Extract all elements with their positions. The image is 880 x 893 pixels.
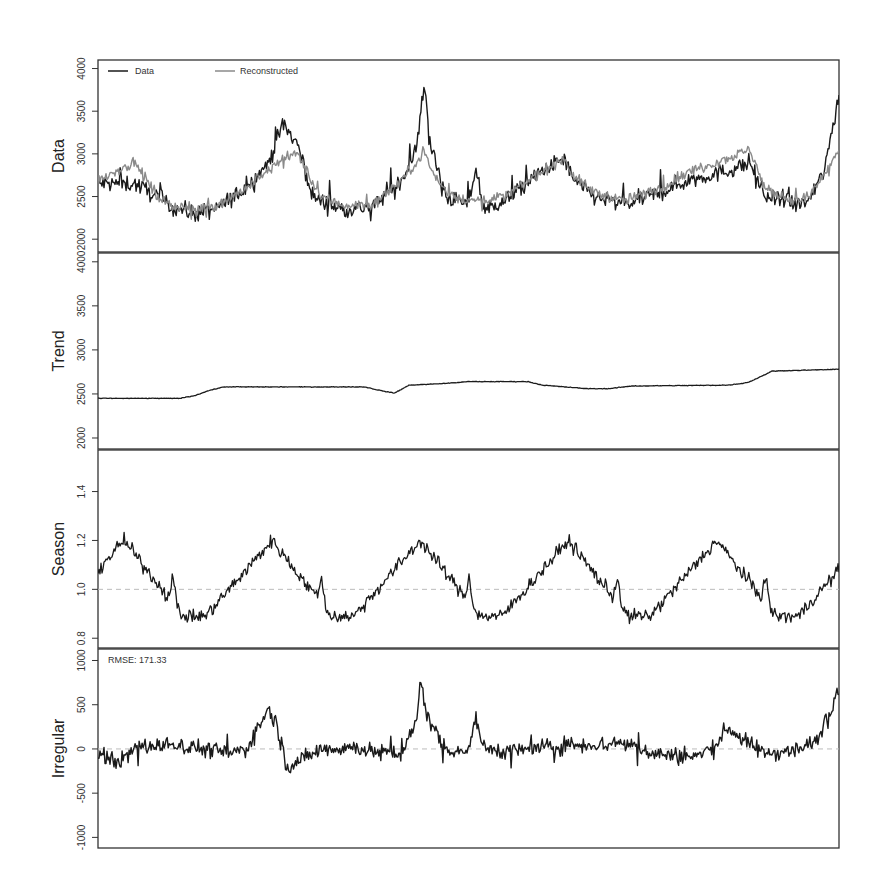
panel-season: 0.81.01.21.4Season (50, 450, 839, 648)
rmse-annotation: RMSE: 171.33 (108, 655, 167, 665)
panel-trend: 20002500300035004000Trend (50, 250, 839, 449)
y-tick-label: 1.4 (76, 484, 87, 498)
y-tick-label: 4000 (76, 57, 87, 80)
decomposition-chart: 20002500300035004000DataDataReconstructe… (0, 0, 880, 893)
panel-frame (98, 253, 839, 449)
y-axis-label: Season (50, 522, 67, 576)
y-tick-label: 4000 (76, 250, 87, 273)
panel-frame (98, 60, 839, 252)
y-tick-label: 2500 (76, 185, 87, 208)
legend: DataReconstructed (108, 66, 298, 76)
y-tick-label: -500 (76, 783, 87, 803)
y-axis-label: Irregular (50, 718, 67, 778)
y-tick-label: 0.8 (76, 631, 87, 645)
panel-data: 20002500300035004000DataDataReconstructe… (50, 57, 839, 252)
y-tick-label: 3000 (76, 338, 87, 361)
y-tick-label: 1.0 (76, 582, 87, 596)
y-tick-label: 3000 (76, 142, 87, 165)
series-trend (98, 369, 839, 399)
panels-layer: 20002500300035004000DataDataReconstructe… (50, 57, 839, 850)
y-tick-label: 3500 (76, 100, 87, 123)
y-tick-label: 2500 (76, 382, 87, 405)
panel-frame (98, 450, 839, 648)
y-tick-label: 1.2 (76, 533, 87, 547)
y-tick-label: -1000 (76, 824, 87, 850)
y-tick-label: 1000 (76, 649, 87, 672)
legend-label: Data (135, 66, 154, 76)
series-season (98, 532, 839, 623)
y-axis-label: Trend (50, 330, 67, 371)
series-irregular (98, 682, 839, 772)
y-tick-label: 500 (76, 696, 87, 713)
panel-irregular: -1000-50005001000IrregularRMSE: 171.33 (50, 649, 839, 850)
y-tick-label: 2000 (76, 228, 87, 251)
legend-label: Reconstructed (240, 66, 298, 76)
y-tick-label: 0 (76, 746, 87, 752)
y-axis-label: Data (50, 139, 67, 173)
y-tick-label: 2000 (76, 426, 87, 449)
y-tick-label: 3500 (76, 294, 87, 317)
